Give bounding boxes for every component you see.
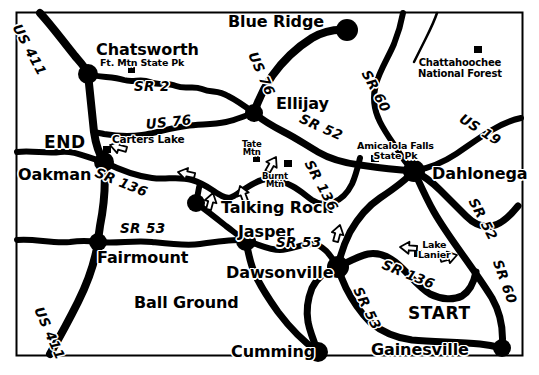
route-number-label: SR 2 (134, 80, 170, 94)
city-dot (403, 160, 425, 182)
poi-marker-square (103, 146, 111, 153)
road-sr53-west (17, 240, 246, 245)
road-map: Blue RidgeChatsworthEllijayDahlonegaOakm… (0, 0, 539, 375)
city-label: Ball Ground (134, 295, 239, 311)
route-terminus-label: START (408, 305, 471, 322)
route-number-label: SR 53 (276, 236, 322, 250)
city-label: Chatsworth (96, 42, 199, 58)
poi-label: Carters Lake (112, 134, 184, 145)
poi-label: Tate Mtn (242, 140, 261, 157)
route-terminus-label: END (44, 134, 86, 151)
city-label: Gainesville (371, 342, 469, 358)
city-label: Talking Rock (221, 200, 333, 216)
poi-marker-square (284, 160, 292, 167)
city-label: Blue Ridge (228, 14, 324, 30)
city-dot (336, 19, 358, 41)
city-dot (78, 64, 98, 84)
poi-marker-square (474, 46, 482, 53)
route-number-label: SR 53 (120, 222, 166, 236)
poi-label: Chattahoochee National Forest (418, 57, 502, 79)
city-label: Ellijay (276, 96, 329, 112)
city-label: Dahlonega (432, 166, 528, 182)
poi-label: Ft. Mtn State Pk (100, 58, 184, 68)
poi-label: Amicalola Falls State Pk (357, 141, 434, 160)
city-dot (187, 194, 205, 212)
city-label: Cumming (231, 344, 315, 360)
city-label: Dawsonville (226, 265, 333, 281)
city-label: Fairmount (97, 250, 188, 266)
city-dot (245, 104, 263, 122)
poi-label: Burnt Mtn (262, 172, 288, 189)
city-dot (493, 339, 511, 357)
city-label: Oakman (18, 167, 91, 183)
poi-label: Lake Lanier (418, 240, 450, 259)
